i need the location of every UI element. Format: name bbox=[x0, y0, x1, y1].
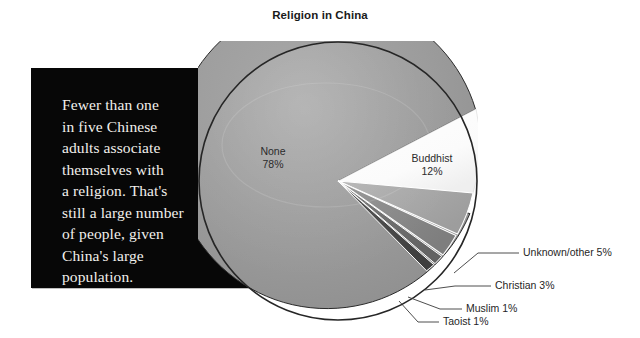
chart-page: Religion in China Fewer than one in five… bbox=[0, 0, 640, 338]
pie-svg bbox=[198, 41, 478, 321]
pie-label-unknown-other: Unknown/other 5% bbox=[523, 246, 612, 258]
pie-label-none: None 78% bbox=[243, 145, 303, 171]
page-title: Religion in China bbox=[0, 9, 640, 21]
pie-label-christian: Christian 3% bbox=[495, 279, 555, 291]
pie-label-buddhist: Buddhist 12% bbox=[398, 152, 466, 178]
pie-label-muslim: Muslim 1% bbox=[466, 302, 517, 314]
pie-label-taoist: Taoist 1% bbox=[443, 315, 489, 327]
callout-text: Fewer than one in five Chinese adults as… bbox=[62, 94, 212, 288]
pie-chart bbox=[198, 41, 478, 321]
